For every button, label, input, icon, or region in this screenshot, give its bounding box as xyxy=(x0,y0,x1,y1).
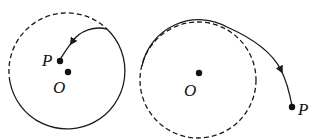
right-label-o: O xyxy=(184,82,196,99)
figure: P O O P xyxy=(0,0,309,139)
left-label-p: P xyxy=(42,52,52,69)
left-point-p-dot xyxy=(57,58,63,64)
left-trajectory-tail xyxy=(60,42,72,60)
left-trajectory xyxy=(72,28,107,42)
left-circle-solid-arc xyxy=(10,29,125,129)
right-point-p-dot xyxy=(289,104,295,110)
left-circle-dashed-arc xyxy=(9,13,107,82)
right-trajectory-arc xyxy=(142,20,227,66)
left-label-o: O xyxy=(53,79,65,96)
right-circle-dashed xyxy=(140,22,256,138)
right-center-o-dot xyxy=(196,70,202,76)
right-diagram xyxy=(140,20,295,138)
left-center-o-dot xyxy=(65,69,71,75)
left-diagram xyxy=(9,13,125,129)
right-trajectory-tail xyxy=(281,70,292,106)
right-label-p: P xyxy=(298,101,308,118)
